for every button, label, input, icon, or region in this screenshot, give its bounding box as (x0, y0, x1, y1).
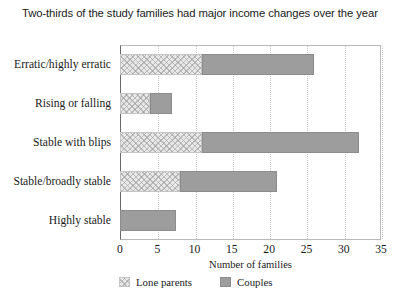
bar-segment (120, 210, 176, 231)
chart-legend: Lone parentsCouples (119, 275, 300, 289)
x-axis-tick-label: 20 (263, 243, 275, 256)
y-axis-label: Stable/broadly stable (13, 162, 111, 201)
gridline-35 (382, 46, 383, 239)
legend-item: Couples (220, 276, 272, 288)
bar-segment (120, 171, 180, 192)
x-axis-title: Number of families (120, 259, 381, 270)
x-axis-tick-label: 15 (226, 243, 238, 256)
bar-segment (120, 132, 202, 153)
bar-row (120, 84, 381, 123)
bar-segment (150, 93, 172, 114)
legend-item: Lone parents (119, 276, 192, 288)
bar-segment (180, 171, 277, 192)
x-axis-tick-label: 10 (189, 243, 201, 256)
stacked-bar (120, 210, 176, 231)
x-axis-tick-labels: 05101520253035 (0, 243, 411, 259)
bar-segment (202, 54, 314, 75)
bar-segment (120, 93, 150, 114)
x-axis-tick-label: 25 (301, 243, 313, 256)
legend-swatch-couples (220, 277, 231, 287)
stacked-bar (120, 171, 277, 192)
x-axis-tick-label: 5 (154, 243, 160, 256)
bar-row (120, 123, 381, 162)
bar-row (120, 201, 381, 240)
legend-label: Couples (237, 276, 272, 288)
bar-row (120, 162, 381, 201)
bar-row (120, 45, 381, 84)
legend-swatch-lone-parents (119, 277, 130, 287)
y-axis-label: Stable with blips (33, 123, 111, 162)
x-axis-tick-label: 30 (338, 243, 350, 256)
bar-segment (202, 132, 359, 153)
stacked-bar (120, 93, 172, 114)
y-axis-label: Erratic/highly erratic (14, 45, 111, 84)
y-axis-labels: Erratic/highly erraticRising or fallingS… (0, 45, 116, 240)
stacked-bar (120, 54, 314, 75)
x-axis-tick-label: 35 (375, 243, 387, 256)
legend-label: Lone parents (136, 276, 192, 288)
stacked-bar (120, 132, 359, 153)
bar-segment (120, 54, 202, 75)
chart-title: Two-thirds of the study families had maj… (22, 5, 397, 21)
x-axis-tick-label: 0 (117, 243, 123, 256)
y-axis-label: Highly stable (49, 201, 111, 240)
bars-layer (120, 45, 381, 240)
y-axis-label: Rising or falling (35, 84, 111, 123)
